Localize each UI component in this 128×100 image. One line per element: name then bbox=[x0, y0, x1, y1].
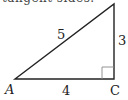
vertex-c-label: C bbox=[110, 84, 120, 97]
right-angle-marker bbox=[102, 67, 114, 79]
vertical-side-length-label: 3 bbox=[118, 34, 126, 47]
vertex-a-label: A bbox=[5, 83, 14, 96]
base-length-label: 4 bbox=[62, 84, 70, 97]
hypotenuse-length-label: 5 bbox=[57, 28, 65, 41]
